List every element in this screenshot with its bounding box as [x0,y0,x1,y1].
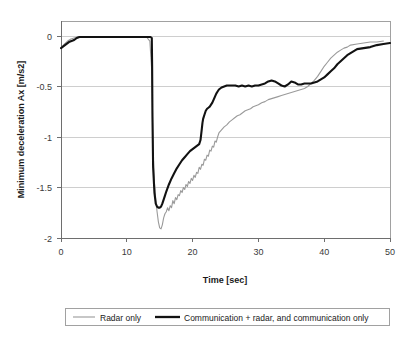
y-tick-label-4: -2 [44,234,52,244]
y-tick-label-1: -0.5 [36,82,52,92]
deceleration-line-chart: 0 -0.5 -1 -1.5 -2 0 10 20 30 40 50 Minim… [0,0,414,344]
legend-label-communication-radar: Communication + radar, and communication… [184,313,369,323]
legend: Radar only Communication + radar, and co… [66,309,390,326]
x-tick-label-1: 10 [122,247,132,257]
y-tickmarks [57,36,61,238]
legend-label-radar-only: Radar only [100,313,142,323]
y-tick-label-0: 0 [47,32,52,42]
y-tick-label-2: -1 [44,133,52,143]
x-axis-title: Time [sec] [203,275,247,285]
x-tickmarks [61,238,390,242]
x-tick-label-3: 30 [253,247,263,257]
x-tick-label-2: 20 [188,247,198,257]
y-axis-title: Minimum deceleration Ax [m/s2] [16,61,26,199]
plot-background [61,21,390,238]
chart-figure: 0 -0.5 -1 -1.5 -2 0 10 20 30 40 50 Minim… [0,0,414,344]
x-tick-label-0: 0 [58,247,63,257]
x-tick-label-5: 50 [385,247,395,257]
x-tick-label-4: 40 [319,247,329,257]
y-tick-label-3: -1.5 [36,183,52,193]
